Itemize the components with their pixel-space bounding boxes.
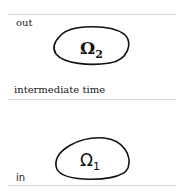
omega1-label: Ω1 (80, 150, 100, 173)
omega2-label: Ω2 (80, 38, 103, 61)
